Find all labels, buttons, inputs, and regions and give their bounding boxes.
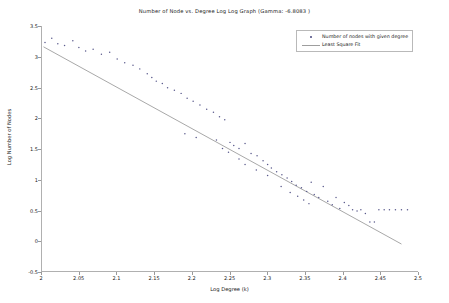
data-point (139, 68, 140, 69)
data-point (389, 209, 390, 210)
data-point (276, 171, 277, 172)
x-tick-label: 2 (39, 275, 42, 281)
data-point (335, 197, 336, 198)
data-point (224, 119, 225, 120)
legend-line-marker-icon (300, 45, 322, 46)
data-point (344, 202, 345, 203)
data-point (339, 208, 340, 209)
chart-title: Number of Node vs. Degree Log Log Graph … (0, 8, 449, 14)
data-point (313, 194, 314, 195)
data-point (229, 142, 230, 143)
data-point (378, 209, 379, 210)
data-point (244, 164, 245, 165)
x-tick-label: 2.05 (73, 275, 84, 281)
data-point (262, 160, 263, 161)
x-tick-label: 2.5 (414, 275, 422, 281)
x-tick-label: 2.35 (299, 275, 310, 281)
data-point (281, 174, 282, 175)
data-point (192, 101, 193, 102)
data-point (116, 58, 117, 59)
data-point (195, 137, 196, 138)
data-point (124, 62, 125, 63)
x-tick-mark (230, 272, 231, 275)
x-tick-mark (343, 272, 344, 275)
y-tick-mark (38, 180, 41, 181)
least-square-fit-line (44, 47, 402, 244)
y-tick-mark (38, 149, 41, 150)
y-tick-label: 0.5 (30, 208, 38, 214)
x-tick-label: 2.4 (339, 275, 347, 281)
x-tick-mark (116, 272, 117, 275)
plot-canvas (42, 26, 418, 271)
data-point (233, 145, 234, 146)
data-point (244, 143, 245, 144)
y-tick-label: 2.5 (30, 85, 38, 91)
data-point (222, 148, 223, 149)
data-point (250, 153, 251, 154)
data-point (64, 45, 65, 46)
data-point (256, 155, 257, 156)
x-tick-label: 2.1 (112, 275, 120, 281)
data-point (295, 185, 296, 186)
data-point (44, 42, 45, 43)
y-tick-mark (38, 88, 41, 89)
data-point (308, 203, 309, 204)
x-tick-label: 2.25 (224, 275, 235, 281)
data-point (310, 181, 311, 182)
y-tick-label: 3.5 (30, 23, 38, 29)
data-point (72, 40, 73, 41)
data-point (199, 104, 200, 105)
data-point (395, 209, 396, 210)
x-tick-label: 2.45 (375, 275, 386, 281)
data-point (374, 221, 375, 222)
y-tick-mark (38, 26, 41, 27)
data-point (365, 213, 366, 214)
data-point (219, 116, 220, 117)
data-point (323, 186, 324, 187)
y-tick-mark (38, 57, 41, 58)
data-point (167, 87, 168, 88)
x-tick-mark (79, 272, 80, 275)
y-tick-mark (38, 241, 41, 242)
data-point (332, 204, 333, 205)
scatter-points (44, 38, 408, 223)
legend-item-label: Number of nodes with given degree (322, 33, 408, 41)
data-point (156, 80, 157, 81)
data-point (184, 133, 185, 134)
x-axis-tick-labels: 22.052.12.152.22.252.32.352.42.452.5 (41, 275, 418, 285)
data-point (51, 38, 52, 39)
data-point (289, 192, 290, 193)
data-point (216, 139, 217, 140)
data-point (174, 90, 175, 91)
fit-line (44, 47, 402, 244)
data-point (101, 53, 102, 54)
x-tick-mark (380, 272, 381, 275)
x-axis-title: Log Degree (k) (41, 286, 418, 292)
y-tick-mark (38, 211, 41, 212)
x-tick-mark (41, 272, 42, 275)
data-point (291, 181, 292, 182)
y-axis-tick-labels: -0.500.511.522.533.5 (14, 26, 38, 272)
data-point (271, 167, 272, 168)
data-point (327, 200, 328, 201)
data-point (318, 197, 319, 198)
data-point (383, 209, 384, 210)
data-point (180, 93, 181, 94)
data-point (256, 169, 257, 170)
x-tick-label: 2.2 (188, 275, 196, 281)
legend-item-label: Least Square Fit (322, 41, 360, 49)
data-point (356, 210, 357, 211)
legend-item-fit: Least Square Fit (300, 41, 408, 49)
y-tick-label: -0.5 (28, 269, 38, 275)
data-point (352, 209, 353, 210)
data-point (401, 209, 402, 210)
data-point (238, 158, 239, 159)
x-tick-label: 2.3 (263, 275, 271, 281)
y-tick-label: 1.5 (30, 146, 38, 152)
data-point (306, 191, 307, 192)
data-point (369, 221, 370, 222)
x-tick-mark (192, 272, 193, 275)
data-point (228, 151, 229, 152)
data-point (280, 186, 281, 187)
data-point (162, 83, 163, 84)
